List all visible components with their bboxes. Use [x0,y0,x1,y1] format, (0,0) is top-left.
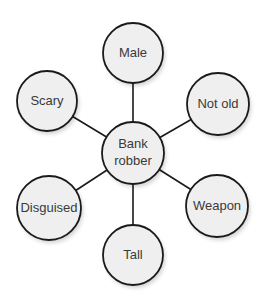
nodes: MaleNot oldWeaponTallDisguisedScaryBankr… [17,23,251,288]
node-label: Scary [30,93,64,108]
node-disguised: Disguised [17,176,83,243]
node-weapon: Weapon [186,175,250,240]
node-label-line1: Bank [118,136,148,151]
node-label-line2: robber [114,153,152,168]
node-male: Male [103,23,165,86]
node-label: Not old [197,96,238,111]
node-label: Weapon [193,198,241,213]
node-label: Tall [123,247,143,262]
node-label: Male [119,45,147,60]
concept-diagram: MaleNot oldWeaponTallDisguisedScaryBankr… [0,0,263,298]
node-label: Disguised [20,200,77,215]
node-not-old: Not old [187,73,251,138]
node-tall: Tall [103,225,165,288]
node-bank-robber: Bankrobber [102,122,166,187]
node-scary: Scary [17,71,79,134]
